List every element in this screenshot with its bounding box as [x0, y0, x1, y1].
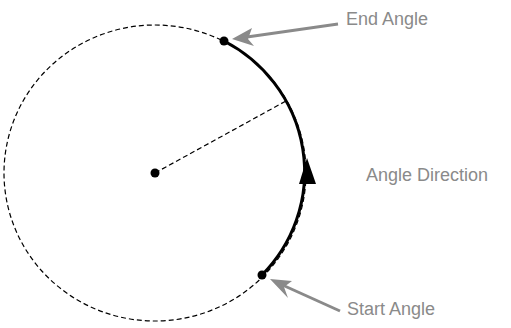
end-angle-pointer-arrow-icon — [232, 24, 338, 46]
center-point — [151, 169, 160, 178]
direction-arrowhead-icon — [299, 158, 316, 184]
solid-arc — [224, 41, 305, 275]
start-point — [258, 271, 267, 280]
start-angle-label: Start Angle — [347, 299, 435, 320]
arc-diagram — [0, 0, 511, 328]
end-angle-label: End Angle — [346, 9, 428, 30]
dashed-radius-line — [155, 101, 286, 173]
start-angle-pointer-arrow-icon — [270, 279, 340, 311]
end-point — [220, 37, 229, 46]
angle-direction-label: Angle Direction — [366, 165, 488, 186]
